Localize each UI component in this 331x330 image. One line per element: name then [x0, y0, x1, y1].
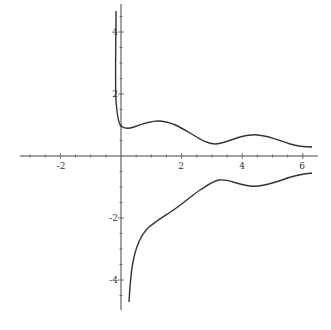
- curve-upper-branch: [116, 11, 312, 147]
- curve-lower-branch: [129, 173, 312, 302]
- x-tick-label: -2: [57, 161, 66, 171]
- axes: [20, 4, 318, 310]
- function-plot: -2 2 4 6 4 2 -2 -4: [0, 0, 331, 330]
- y-tick-label: -2: [109, 213, 118, 223]
- y-tick-label: -4: [109, 275, 118, 285]
- x-tick-label: 4: [239, 161, 245, 171]
- x-tick-label: 2: [178, 161, 184, 171]
- x-tick-label: 6: [299, 161, 305, 171]
